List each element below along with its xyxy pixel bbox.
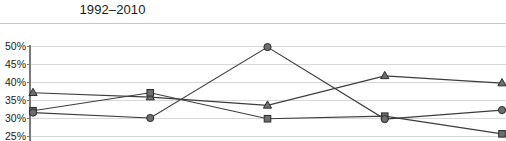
circle-marker bbox=[381, 115, 388, 122]
circle-marker bbox=[147, 114, 154, 121]
square-marker bbox=[264, 115, 271, 122]
square-marker bbox=[147, 90, 154, 97]
triangle-marker bbox=[381, 71, 389, 78]
series-square bbox=[30, 90, 506, 138]
circle-marker bbox=[29, 109, 36, 116]
circle-marker bbox=[264, 43, 271, 50]
series-circle bbox=[29, 43, 505, 122]
series-triangle bbox=[29, 71, 506, 108]
plot-svg bbox=[0, 24, 506, 141]
square-marker bbox=[499, 131, 506, 138]
data-series-group bbox=[29, 43, 506, 137]
chart-title: 1992–2010 bbox=[0, 2, 225, 18]
plot-area: 50% 45% 40% 35% 30% 25% bbox=[0, 24, 506, 141]
series-line bbox=[33, 93, 502, 134]
circle-marker bbox=[498, 106, 505, 113]
chart-figure: 1992–2010 50% 45% 40% 35% 30% 25% bbox=[0, 0, 506, 141]
